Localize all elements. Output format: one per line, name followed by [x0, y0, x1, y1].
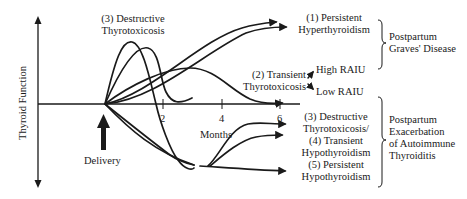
low-raiu-arrow-icon	[308, 84, 313, 89]
brace-graves	[378, 20, 386, 69]
tick-label-2: 2	[160, 113, 165, 124]
label-low-raiu: Low RAIU	[316, 86, 364, 98]
curve-destructive-peak-a	[105, 42, 194, 169]
thyroid-function-diagram	[0, 0, 467, 199]
label-high-raiu: High RAIU	[316, 64, 365, 76]
y-axis-down-arrow-icon	[35, 180, 42, 188]
x-axis-label: Months	[200, 129, 232, 141]
label-persistent-hyperthyroidism: (1) Persistent Hyperthyroidism	[292, 12, 376, 36]
delivery-label: Delivery	[84, 155, 121, 167]
tick-label-6: 6	[277, 113, 282, 124]
y-axis-up-arrow-icon	[35, 16, 42, 24]
label-transient-thyrotoxicosis: (2) Transient Thyrotoxicosis	[236, 69, 306, 93]
x-axis	[38, 99, 300, 109]
brace-autoimmune	[378, 97, 386, 187]
curve-persistent-hypo	[200, 166, 285, 171]
group-label-autoimmune: Postpartum Exacerbation of Autoimmune Th…	[389, 114, 455, 162]
delivery-arrow-icon	[97, 114, 110, 150]
label-destructive-top: (3) Destructive Thyrotoxicosis	[93, 13, 173, 37]
high-raiu-arrow-icon	[308, 72, 313, 78]
y-axis-label: Thyroid Function	[17, 66, 28, 140]
group-label-graves: Postpartum Graves' Disease	[389, 31, 456, 55]
y-axis	[35, 16, 42, 188]
tick-label-4: 4	[219, 113, 224, 124]
label-hypothyroid-outcomes: (3) Destructive Thyrotoxicosis/ (4) Tran…	[296, 111, 376, 183]
